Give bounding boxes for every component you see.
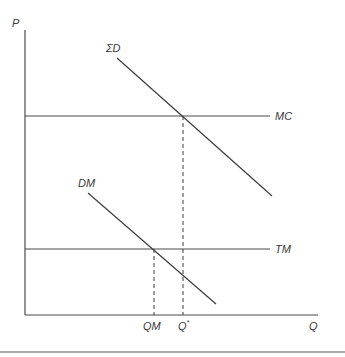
x-axis-label: Q [309,320,318,332]
sum-demand-curve [117,58,272,196]
tm-label: TM [275,243,292,255]
mc-label: MC [275,110,292,122]
y-axis-label: P [12,17,20,29]
member-demand-label: DM [78,177,96,189]
qm-label: QM [143,320,162,332]
qstar-superscript: * [187,319,190,326]
sum-demand-label: ΣD [105,42,121,54]
economics-diagram: P Q MC TM ΣD DM QM Q* [0,0,345,357]
qstar-label: Q* [178,319,190,332]
